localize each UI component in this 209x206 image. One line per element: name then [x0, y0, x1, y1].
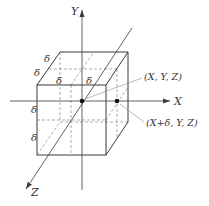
z-axis-label: Z [31, 187, 39, 198]
delta-label-top-width-left: δ [56, 76, 62, 86]
delta-label-front-height-upper: δ [31, 105, 37, 115]
center-leader [85, 78, 142, 99]
offset-point-label: (X+δ, Y, Z) [146, 118, 198, 128]
offset-point [115, 99, 120, 104]
delta-label-top-depth-upper: δ [44, 54, 50, 64]
axes [10, 10, 170, 190]
center-point-label: (X, Y, Z) [144, 72, 182, 82]
offset-leader [120, 104, 144, 122]
delta-label-front-height-lower: δ [31, 133, 37, 143]
delta-label-top-depth-lower: δ [34, 68, 40, 78]
delta-label-top-width-right: δ [86, 76, 92, 86]
diagram-canvas: Y X Z (X, Y, Z) (X+δ, Y, Z) δ δ δ δ δ δ [0, 0, 209, 206]
y-axis-label: Y [71, 6, 78, 17]
x-axis-label: X [174, 96, 182, 107]
center-point [80, 99, 85, 104]
